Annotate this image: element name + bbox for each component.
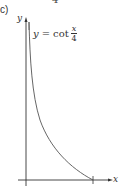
eq-denominator: 4 [71, 34, 76, 43]
cot-curve [29, 22, 93, 180]
eq-sign: = [42, 28, 50, 39]
eq-numerator: x [71, 24, 78, 34]
y-axis-label: y [17, 13, 22, 23]
eq-lhs: y [33, 28, 39, 39]
eq-fraction: x 4 [71, 24, 78, 43]
equation-label: y = cot x 4 [33, 24, 77, 43]
x-axis-label: x [113, 174, 118, 184]
eq-fn: cot [53, 28, 69, 39]
y-axis-arrow-icon [25, 17, 28, 22]
